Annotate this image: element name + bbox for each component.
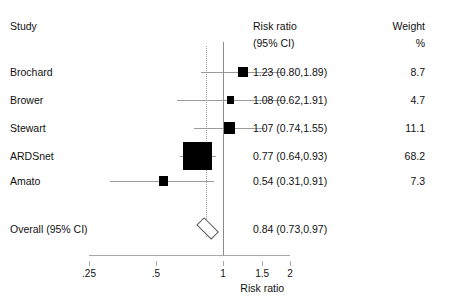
study-label: Brochard — [10, 66, 53, 78]
x-axis-tick — [89, 261, 90, 266]
study-estimate: 1.08 (0.62,1.91) — [253, 94, 327, 106]
study-estimate: 1.23 (0.80,1.89) — [253, 66, 327, 78]
x-axis-tick-label: .25 — [69, 268, 109, 279]
forest-plot: StudyRisk ratioWeight(95% CI)%Brochard1.… — [0, 0, 451, 304]
study-marker — [159, 176, 168, 185]
study-weight: 11.1 — [345, 122, 425, 134]
study-marker — [227, 96, 234, 103]
x-axis-tick-label: 1 — [203, 268, 243, 279]
header-study: Study — [10, 20, 37, 32]
x-axis-tick — [156, 261, 157, 266]
x-axis-tick-label: .5 — [136, 268, 176, 279]
study-weight: 8.7 — [345, 66, 425, 78]
study-marker — [183, 142, 211, 170]
study-marker — [238, 67, 248, 77]
study-label: ARDSnet — [10, 150, 54, 162]
study-label: Brower — [10, 94, 43, 106]
study-marker — [224, 122, 235, 133]
x-axis-title: Risk ratio — [212, 282, 312, 294]
study-weight: 7.3 — [345, 175, 425, 187]
header-weight-line2: % — [345, 37, 425, 49]
study-estimate: 0.77 (0.64,0.93) — [253, 150, 327, 162]
x-axis-tick-label: 2 — [270, 268, 310, 279]
header-estimate-line2: (95% CI) — [253, 37, 294, 49]
pooled-diamond — [196, 217, 219, 240]
header-weight-line1: Weight — [345, 20, 425, 32]
study-label: Amato — [10, 175, 40, 187]
header-estimate-line1: Risk ratio — [253, 20, 297, 32]
study-label: Stewart — [10, 122, 46, 134]
overall-estimate: 0.84 (0.73,0.97) — [253, 223, 327, 235]
study-estimate: 1.07 (0.74,1.55) — [253, 122, 327, 134]
overall-label: Overall (95% CI) — [10, 223, 88, 235]
x-axis-tick — [290, 261, 291, 266]
study-weight: 68.2 — [345, 150, 425, 162]
x-axis-tick — [223, 261, 224, 266]
x-axis-tick — [262, 261, 263, 266]
study-estimate: 0.54 (0.31,0.91) — [253, 175, 327, 187]
x-axis-line — [89, 255, 290, 256]
study-weight: 4.7 — [345, 94, 425, 106]
